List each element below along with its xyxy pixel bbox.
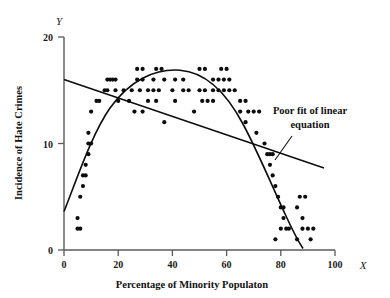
data-point [97, 99, 101, 103]
data-point [122, 88, 126, 92]
data-point [146, 88, 150, 92]
data-point [262, 141, 266, 145]
data-point [295, 237, 299, 241]
data-point [200, 99, 204, 103]
data-point [86, 152, 90, 156]
data-point [225, 67, 229, 71]
data-point [138, 88, 142, 92]
data-point [243, 99, 247, 103]
annotation-line-1: Poor fit of linear [273, 105, 348, 116]
data-point [75, 216, 79, 220]
data-point [238, 109, 242, 113]
data-point [287, 227, 291, 231]
data-point [309, 237, 313, 241]
data-point [187, 88, 191, 92]
x-tick-label-100: 100 [328, 259, 343, 270]
data-point [89, 141, 93, 145]
data-point [151, 88, 155, 92]
data-point [298, 195, 302, 199]
data-point [279, 227, 283, 231]
data-point [140, 109, 144, 113]
data-point [105, 88, 109, 92]
data-point [154, 99, 158, 103]
data-point [300, 216, 304, 220]
x-tick-label-40: 40 [167, 259, 177, 270]
data-point [252, 109, 256, 113]
data-point [311, 227, 315, 231]
data-point [295, 205, 299, 209]
data-point [140, 78, 144, 82]
y-tick-label-20: 20 [43, 32, 53, 43]
data-point [113, 88, 117, 92]
axis-group [58, 37, 335, 256]
data-point [222, 78, 226, 82]
data-point [113, 78, 117, 82]
x-axis-variable-label: X [359, 259, 368, 271]
data-point [154, 67, 158, 71]
data-point [84, 163, 88, 167]
data-point [170, 88, 174, 92]
data-point [135, 67, 139, 71]
data-point [157, 88, 161, 92]
data-point [162, 78, 166, 82]
data-point [192, 109, 196, 113]
data-point [86, 131, 90, 135]
data-point [227, 78, 231, 82]
data-point [276, 195, 280, 199]
data-point [84, 173, 88, 177]
x-tick-label-20: 20 [113, 259, 123, 270]
x-axis-title: Percentage of Minority Populaton [116, 279, 268, 290]
x-tick-label-60: 60 [222, 259, 232, 270]
data-point [181, 78, 185, 82]
data-point [78, 195, 82, 199]
data-point [211, 78, 215, 82]
data-point [273, 237, 277, 241]
data-point [159, 67, 163, 71]
data-point [216, 88, 220, 92]
data-point [246, 109, 250, 113]
data-point [197, 88, 201, 92]
data-point [238, 99, 242, 103]
annotation-line-2: equation [290, 119, 329, 130]
data-point [206, 99, 210, 103]
y-axis-variable-label: Y [56, 15, 64, 27]
data-point [78, 227, 82, 231]
data-point [116, 99, 120, 103]
data-point [281, 216, 285, 220]
data-point [127, 99, 131, 103]
data-point [257, 109, 261, 113]
hate-crimes-scatter-figure: 20 10 0 0 20 40 60 80 100 Y X Percentage… [0, 0, 390, 298]
data-point [203, 67, 207, 71]
x-tick-label-80: 80 [276, 259, 286, 270]
data-point [306, 227, 310, 231]
data-point [197, 67, 201, 71]
data-point [300, 227, 304, 231]
data-point [81, 184, 85, 188]
data-point [227, 88, 231, 92]
data-point [254, 131, 258, 135]
data-point [162, 120, 166, 124]
data-point [219, 67, 223, 71]
data-point [89, 109, 93, 113]
data-point [173, 78, 177, 82]
data-point [146, 99, 150, 103]
y-axis-title: Incidence of Hate Crimes [13, 86, 24, 200]
data-point [130, 88, 134, 92]
data-point [216, 78, 220, 82]
data-point [268, 163, 272, 167]
x-tick-label-0: 0 [62, 259, 67, 270]
data-point [211, 88, 215, 92]
data-point [181, 88, 185, 92]
y-tick-label-0: 0 [48, 245, 53, 256]
data-point [271, 152, 275, 156]
data-point [222, 88, 226, 92]
chart-canvas: 20 10 0 0 20 40 60 80 100 Y X Percentage… [0, 0, 390, 298]
data-point [140, 67, 144, 71]
data-point [303, 195, 307, 199]
data-point [151, 78, 155, 82]
data-point [271, 173, 275, 177]
data-point [281, 205, 285, 209]
quadratic-fit-curve [64, 70, 303, 248]
data-point [211, 99, 215, 103]
data-point [173, 99, 177, 103]
